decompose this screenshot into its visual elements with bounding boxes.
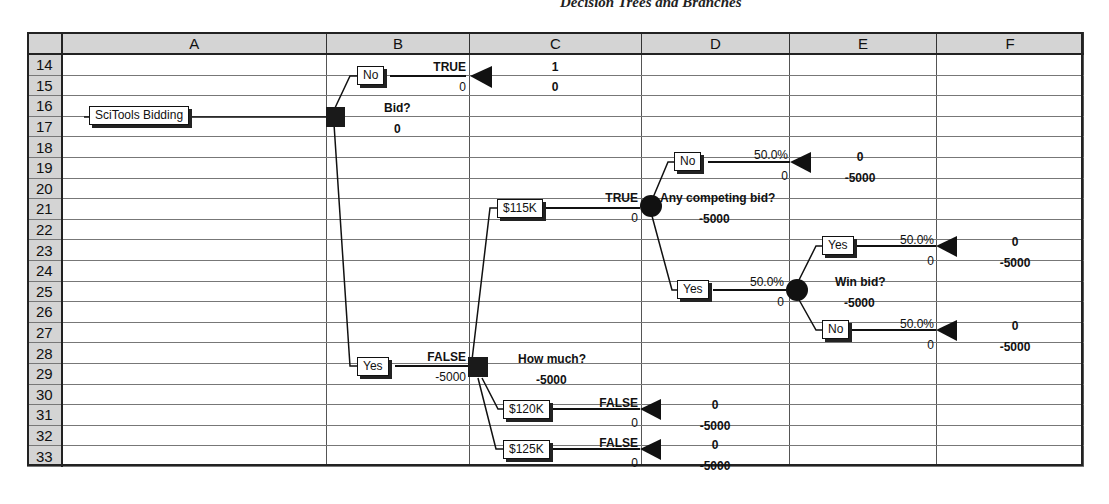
win-no-label[interactable]: No bbox=[822, 320, 849, 339]
branch-no-label[interactable]: No bbox=[357, 66, 384, 85]
branch-115k-flag: TRUE bbox=[560, 191, 638, 205]
branch-yes-value: -5000 bbox=[400, 370, 466, 384]
decision-how-much-value: -5000 bbox=[536, 373, 567, 387]
end-node-125k-icon bbox=[640, 439, 661, 460]
end-120k-value: -5000 bbox=[670, 419, 760, 433]
win-no-value: 0 bbox=[866, 338, 934, 352]
decision-bid-value: 0 bbox=[394, 122, 401, 136]
chance-competing-value: -5000 bbox=[699, 212, 730, 226]
decision-how-much-name: How much? bbox=[518, 352, 586, 366]
comp-yes-label[interactable]: Yes bbox=[677, 280, 709, 299]
decision-node-bid-icon bbox=[326, 107, 345, 127]
end-node-win-yes-icon bbox=[936, 236, 957, 257]
end-no-prob: 1 bbox=[520, 60, 590, 74]
branch-no-flag: TRUE bbox=[400, 60, 466, 74]
chance-node-win-icon bbox=[786, 279, 808, 301]
chance-node-competing-icon bbox=[640, 195, 662, 217]
win-yes-value: 0 bbox=[866, 254, 934, 268]
end-win-no-value: -5000 bbox=[970, 340, 1060, 354]
end-node-120k-icon bbox=[640, 399, 661, 420]
comp-no-label[interactable]: No bbox=[674, 152, 701, 171]
chance-win-value: -5000 bbox=[844, 296, 875, 310]
end-win-no-prob: 0 bbox=[970, 319, 1060, 333]
end-node-no-icon bbox=[470, 66, 492, 88]
root-node-label[interactable]: SciTools Bidding bbox=[89, 106, 189, 125]
end-125k-value: -5000 bbox=[670, 459, 760, 473]
decision-tree-lines bbox=[0, 0, 1109, 504]
win-yes-prob: 50.0% bbox=[866, 233, 934, 247]
comp-yes-prob: 50.0% bbox=[716, 275, 784, 289]
branch-yes-flag: FALSE bbox=[400, 350, 466, 364]
chance-win-name: Win bid? bbox=[835, 275, 886, 289]
branch-125k-value: 0 bbox=[560, 456, 638, 470]
chance-competing-name: Any competing bid? bbox=[660, 191, 775, 205]
end-win-yes-prob: 0 bbox=[970, 235, 1060, 249]
decision-node-how-much-icon bbox=[468, 357, 488, 377]
decision-bid-name: Bid? bbox=[384, 101, 411, 115]
branch-120k-value: 0 bbox=[560, 416, 638, 430]
end-comp-no-value: -5000 bbox=[815, 171, 905, 185]
end-120k-prob: 0 bbox=[670, 398, 760, 412]
branch-115k-value: 0 bbox=[560, 211, 638, 225]
branch-120k-label[interactable]: $120K bbox=[503, 400, 550, 419]
win-yes-label[interactable]: Yes bbox=[822, 236, 854, 255]
win-no-prob: 50.0% bbox=[866, 317, 934, 331]
comp-yes-value: 0 bbox=[716, 295, 784, 309]
branch-yes-label[interactable]: Yes bbox=[357, 357, 389, 376]
branch-115k-label[interactable]: $115K bbox=[497, 199, 543, 218]
comp-no-value: 0 bbox=[720, 169, 788, 183]
end-node-comp-no-icon bbox=[790, 152, 811, 173]
end-no-value: 0 bbox=[520, 80, 590, 94]
end-node-win-no-icon bbox=[936, 320, 957, 341]
end-win-yes-value: -5000 bbox=[970, 256, 1060, 270]
end-125k-prob: 0 bbox=[670, 438, 760, 452]
branch-no-value: 0 bbox=[400, 80, 466, 94]
end-comp-no-prob: 0 bbox=[815, 150, 905, 164]
branch-125k-flag: FALSE bbox=[560, 436, 638, 450]
branch-125k-label[interactable]: $125K bbox=[503, 440, 550, 459]
comp-no-prob: 50.0% bbox=[720, 148, 788, 162]
branch-120k-flag: FALSE bbox=[560, 396, 638, 410]
